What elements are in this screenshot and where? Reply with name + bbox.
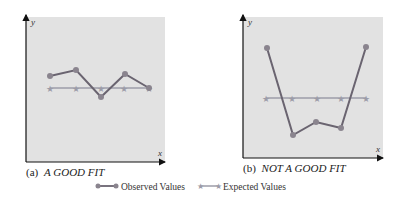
figure: y x ★★★★★ (a) A GOOD FIT y x ★★★	[0, 0, 398, 204]
legend-observed: Observed Values	[96, 182, 186, 192]
svg-text:★: ★	[215, 182, 222, 191]
legend-expected: ★ ★ Expected Values	[197, 182, 287, 192]
svg-text:★: ★	[362, 94, 370, 104]
panel-a-caption-text: A GOOD FIT	[43, 166, 105, 178]
panel-a: y x ★★★★★ (a) A GOOD FIT	[26, 15, 165, 179]
svg-text:★: ★	[288, 94, 296, 104]
svg-text:★: ★	[46, 84, 54, 94]
panel-a-label: (a)	[26, 166, 39, 179]
panel-a-caption: (a) A GOOD FIT	[26, 166, 105, 179]
panel-a-x-label: x	[157, 148, 162, 158]
panel-b-caption: (b) NOT A GOOD FIT	[243, 162, 347, 175]
svg-text:★: ★	[262, 94, 270, 104]
panel-b-caption-text: NOT A GOOD FIT	[261, 162, 347, 174]
panel-a-y-label: y	[30, 17, 35, 27]
panel-b-y-label: y	[247, 17, 252, 27]
legend-expected-label: Expected Values	[223, 182, 286, 192]
svg-text:★: ★	[97, 84, 105, 94]
svg-text:★: ★	[313, 94, 321, 104]
panel-b-label: (b)	[243, 162, 256, 175]
expected-marker-icon: ★	[197, 182, 204, 191]
observed-marker-icon	[96, 184, 101, 189]
svg-text:★: ★	[120, 84, 128, 94]
panel-b: y x ★★★★★ (b) NOT A GOOD FIT	[243, 15, 383, 175]
legend: Observed Values ★ ★ Expected Values	[96, 182, 287, 192]
svg-text:★: ★	[72, 84, 80, 94]
panel-b-x-label: x	[375, 144, 380, 154]
legend-observed-label: Observed Values	[121, 182, 185, 192]
panel-b-background	[243, 17, 383, 158]
svg-text:★: ★	[337, 94, 345, 104]
